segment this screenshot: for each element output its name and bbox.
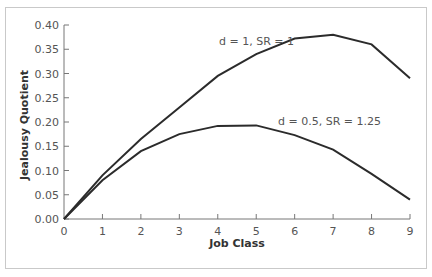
x-axis-title: Job Class — [208, 237, 265, 250]
x-tick-label: 9 — [407, 225, 414, 238]
y-axis-title: Jealousy Quotient — [18, 70, 31, 181]
y-tick-label: 0.00 — [35, 213, 60, 226]
y-tick-label: 0.05 — [35, 189, 60, 202]
y-tick-label: 0.35 — [35, 43, 60, 56]
annotation-upper-series: d = 1, SR = 1 — [219, 35, 294, 48]
y-tick-label: 0.20 — [35, 116, 60, 129]
y-axis: 0.000.050.100.150.200.250.300.350.40 — [35, 19, 70, 226]
x-tick-label: 1 — [99, 225, 106, 238]
y-tick-label: 0.40 — [35, 19, 60, 32]
y-tick-label: 0.15 — [35, 140, 60, 153]
line-chart: 0.000.050.100.150.200.250.300.350.40 012… — [0, 0, 432, 277]
x-tick-label: 6 — [291, 225, 298, 238]
x-tick-label: 7 — [330, 225, 337, 238]
x-tick-label: 8 — [368, 225, 375, 238]
x-tick-label: 0 — [61, 225, 68, 238]
x-tick-label: 2 — [137, 225, 144, 238]
y-tick-label: 0.30 — [35, 68, 60, 81]
y-tick-label: 0.25 — [35, 92, 60, 105]
series-line-2 — [64, 125, 410, 219]
annotation-lower-series: d = 0.5, SR = 1.25 — [278, 115, 381, 128]
x-tick-label: 3 — [176, 225, 183, 238]
y-tick-label: 0.10 — [35, 165, 60, 178]
x-axis: 0123456789 — [61, 214, 414, 238]
